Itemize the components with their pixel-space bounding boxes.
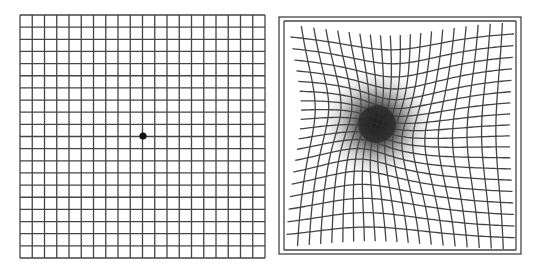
distorted-amsler-grid — [279, 17, 521, 254]
amsler-grid-figure — [0, 0, 533, 270]
normal-amsler-grid — [20, 15, 265, 258]
fixation-dot — [139, 132, 146, 139]
scotoma-core — [358, 105, 395, 142]
